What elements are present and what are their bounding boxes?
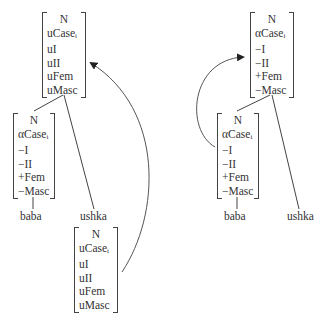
feature-row: N	[222, 114, 254, 128]
edge-right-root-to-ushka	[272, 95, 299, 209]
feature-row: uMasc	[47, 84, 81, 98]
feature-row: αCasei	[255, 27, 289, 44]
feature-row: −I	[18, 144, 50, 158]
leaf-ushka-right: ushka	[287, 210, 314, 222]
feature-row: −Masc	[222, 185, 254, 199]
feature-row: N	[79, 228, 113, 242]
feature-row: αCasei	[18, 128, 50, 145]
feature-row: uCasei	[79, 242, 113, 259]
leaf-ushka-left: ushka	[80, 210, 107, 222]
feature-row: uI	[79, 258, 113, 272]
feature-row: uI	[47, 43, 81, 57]
leaf-baba-left: baba	[20, 210, 42, 222]
feature-matrix-left-root: N uCasei uI uII uFem uMasc	[42, 12, 86, 98]
feature-row: uMasc	[79, 299, 113, 313]
feature-row: −II	[18, 158, 50, 172]
feature-row: N	[47, 13, 81, 27]
leaf-baba-right: baba	[224, 210, 246, 222]
feature-row: −Masc	[18, 185, 50, 199]
feature-row: −I	[255, 43, 289, 57]
feature-row: +Fem	[255, 70, 289, 84]
feature-row: uFem	[79, 285, 113, 299]
feature-row: uCasei	[47, 27, 81, 44]
feature-matrix-left-child: N αCasei −I −II +Fem −Masc	[13, 113, 55, 199]
feature-row: uII	[79, 272, 113, 286]
feature-row: uFem	[47, 70, 81, 84]
edge-left-root-to-ushka	[64, 95, 94, 209]
feature-row: +Fem	[222, 171, 254, 185]
feature-row: −II	[222, 158, 254, 172]
feature-row: −I	[222, 144, 254, 158]
feature-matrix-right-child: N αCasei −I −II +Fem −Masc	[217, 113, 259, 199]
feature-row: N	[255, 13, 289, 27]
feature-matrix-right-root: N αCasei −I −II +Fem −Masc	[250, 12, 294, 98]
feature-row: −Masc	[255, 84, 289, 98]
feature-matrix-ushka: N uCasei uI uII uFem uMasc	[74, 227, 118, 313]
feature-row: +Fem	[18, 171, 50, 185]
feature-row: −II	[255, 57, 289, 71]
feature-row: uII	[47, 57, 81, 71]
feature-row: N	[18, 114, 50, 128]
feature-row: αCasei	[222, 128, 254, 145]
